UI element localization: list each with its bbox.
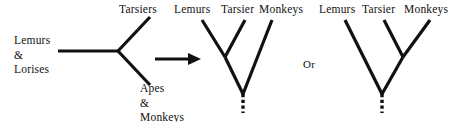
tree2-tip-label-lemurs: Lemurs xyxy=(319,3,355,16)
branch-tarsiers xyxy=(118,17,150,51)
arrow-head xyxy=(188,53,201,65)
tree2-branch-lemurs xyxy=(345,20,382,94)
tree1-tip-label-monkeys: Monkeys xyxy=(259,3,303,16)
conjunction-or: Or xyxy=(303,58,315,70)
label-tarsiers: Tarsiers xyxy=(119,3,157,16)
tree2-branch-clade-tarsier-monkeys xyxy=(382,57,403,94)
tree1-branch-lemurs xyxy=(202,20,225,57)
branch-apes-monkeys xyxy=(118,51,150,85)
label-apes-monkeys: Apes & Monkeys xyxy=(140,81,184,122)
rooted-tree-2-branches xyxy=(345,20,430,113)
tree2-branch-tarsier xyxy=(384,20,403,57)
rooted-tree-1-branches xyxy=(202,20,272,113)
tree1-tip-label-tarsier: Tarsier xyxy=(221,3,254,16)
tree-lines-canvas xyxy=(0,0,468,122)
tree2-tip-label-monkeys: Monkeys xyxy=(404,3,448,16)
tree1-tip-label-lemurs: Lemurs xyxy=(174,3,210,16)
label-lemurs-lorises-line1: Lemurs xyxy=(14,33,50,48)
phylogeny-figure: Lemurs & Lorises Tarsiers Apes & Monkeys… xyxy=(0,0,468,122)
tree1-branch-monkeys xyxy=(243,20,272,94)
tree2-branch-monkeys xyxy=(403,20,430,57)
label-apes-monkeys-line2: & xyxy=(140,96,184,111)
unrooted-tree-branches xyxy=(58,17,150,85)
label-lemurs-lorises: Lemurs & Lorises xyxy=(14,33,50,77)
tree1-branch-clade-lemurs-tarsier xyxy=(225,57,243,94)
label-apes-monkeys-line3: Monkeys xyxy=(140,110,184,122)
label-lemurs-lorises-line3: Lorises xyxy=(14,62,50,77)
label-lemurs-lorises-line2: & xyxy=(14,48,50,63)
tree1-branch-tarsier xyxy=(225,20,245,57)
tree2-tip-label-tarsier: Tarsier xyxy=(362,3,395,16)
label-apes-monkeys-line1: Apes xyxy=(140,81,184,96)
resolution-arrow-shape xyxy=(155,53,201,65)
